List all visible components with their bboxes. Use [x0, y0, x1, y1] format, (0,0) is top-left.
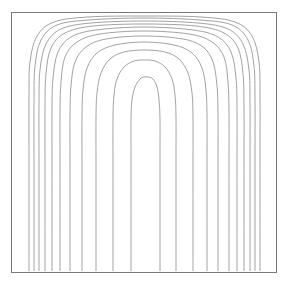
- contour-line: [70, 36, 218, 271]
- contour-line: [39, 21, 250, 271]
- contour-line: [131, 77, 160, 271]
- contour-line: [82, 42, 207, 271]
- contour-line-group: [29, 16, 260, 271]
- contour-line: [45, 24, 244, 271]
- contour-line: [60, 31, 229, 271]
- contour-line: [96, 50, 193, 271]
- contour-line: [34, 18, 255, 271]
- contour-line: [29, 16, 260, 271]
- contour-line: [52, 27, 237, 271]
- contour-line: [113, 60, 176, 271]
- contour-plot-canvas: [0, 0, 289, 285]
- contour-plot-figure: [0, 0, 289, 285]
